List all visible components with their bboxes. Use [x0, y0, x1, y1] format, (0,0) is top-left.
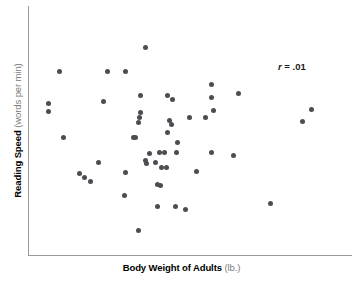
- data-point: [174, 150, 179, 155]
- data-point: [209, 82, 214, 87]
- data-point: [170, 97, 175, 102]
- data-point: [165, 93, 170, 98]
- data-point: [300, 119, 305, 124]
- data-point: [82, 175, 87, 180]
- correlation-annotation: r = .01: [278, 61, 306, 72]
- x-axis-line: [28, 255, 352, 256]
- data-point: [211, 108, 216, 113]
- data-point: [169, 122, 174, 127]
- data-point: [136, 120, 141, 125]
- data-point: [209, 150, 214, 155]
- data-point: [162, 150, 167, 155]
- data-point: [143, 45, 148, 50]
- data-point: [122, 193, 127, 198]
- x-axis-title: Body Weight of Adults (lb.): [0, 262, 363, 273]
- data-point: [96, 160, 101, 165]
- data-point: [183, 207, 188, 212]
- data-point: [187, 115, 192, 120]
- correlation-value: = .01: [282, 61, 306, 72]
- data-point: [155, 182, 160, 187]
- data-point: [138, 110, 143, 115]
- data-point: [77, 171, 82, 176]
- data-point: [46, 109, 51, 114]
- plot-area: [28, 6, 352, 255]
- data-point: [61, 135, 66, 140]
- data-point: [159, 165, 164, 170]
- data-point: [153, 160, 158, 165]
- data-point: [175, 140, 180, 145]
- data-point: [144, 161, 149, 166]
- data-point: [165, 130, 170, 135]
- data-point: [133, 135, 138, 140]
- data-point: [57, 69, 62, 74]
- data-point: [46, 101, 51, 106]
- data-point: [194, 169, 199, 174]
- data-point: [138, 93, 143, 98]
- data-point: [105, 69, 110, 74]
- data-point: [173, 204, 178, 209]
- data-point: [147, 151, 152, 156]
- data-point: [209, 95, 214, 100]
- data-point: [157, 150, 162, 155]
- data-point: [101, 99, 106, 104]
- data-point: [203, 115, 208, 120]
- x-axis-title-unit: (lb.): [224, 262, 240, 273]
- data-point: [123, 69, 128, 74]
- data-point: [136, 228, 141, 233]
- data-point: [236, 91, 241, 96]
- y-axis-title: Reading Speed (words per min): [12, 11, 23, 251]
- y-axis-title-main: Reading Speed: [12, 130, 23, 197]
- data-point: [309, 107, 314, 112]
- data-point: [164, 165, 169, 170]
- data-point: [88, 179, 93, 184]
- data-point: [123, 170, 128, 175]
- data-point: [155, 204, 160, 209]
- x-axis-title-main: Body Weight of Adults: [123, 262, 222, 273]
- scatter-plot-figure: r = .01 Body Weight of Adults (lb.) Read…: [0, 0, 363, 283]
- data-point: [231, 153, 236, 158]
- data-point: [268, 201, 273, 206]
- data-point: [137, 115, 142, 120]
- y-axis-title-unit: (words per min): [12, 63, 23, 128]
